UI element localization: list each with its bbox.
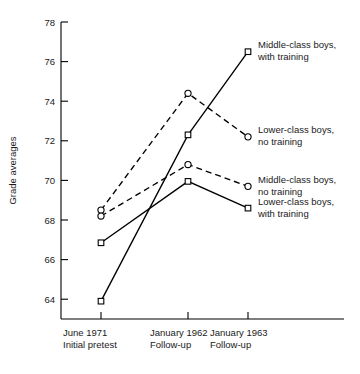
data-point-marker-square	[98, 240, 104, 246]
x-category-label: Follow-up	[150, 339, 191, 350]
y-axis-ticks: 6466687072747678	[44, 17, 68, 305]
y-axis-title: Grade averages	[7, 136, 18, 204]
y-tick-label: 78	[44, 17, 55, 28]
data-point-marker-circle	[185, 90, 191, 96]
data-point-marker-circle	[245, 183, 251, 189]
series-line	[101, 93, 248, 210]
grade-averages-line-chart: 6466687072747678Grade averagesJune 1971I…	[0, 0, 360, 374]
data-point-marker-square	[245, 205, 251, 211]
x-category-label: Follow-up	[210, 339, 251, 350]
data-point-marker-square	[185, 179, 191, 185]
data-point-marker-circle	[245, 134, 251, 140]
y-tick-label: 70	[44, 175, 55, 186]
series-legend-label: Lower-class boys,	[258, 124, 334, 135]
x-category-label: June 1971	[63, 327, 107, 338]
data-point-marker-circle	[185, 161, 191, 167]
data-point-marker-square	[185, 132, 191, 138]
series-legend-label: Middle-class boys,	[258, 174, 336, 185]
y-tick-label: 74	[44, 96, 55, 107]
data-point-marker-square	[98, 298, 104, 304]
series-line	[101, 181, 248, 242]
x-category-label: January 1963	[210, 327, 268, 338]
series-legend-label: with training	[257, 51, 309, 62]
data-point-marker-square	[245, 49, 251, 55]
series-legend-label: Lower-class boys,	[258, 196, 334, 207]
y-tick-label: 72	[44, 135, 55, 146]
series-legend-label: with training	[257, 208, 309, 219]
series-group: Middle-class boys,with trainingLower-cla…	[98, 39, 336, 304]
x-axis-ticks: June 1971Initial pretestJanuary 1962Foll…	[63, 312, 268, 350]
axes	[61, 22, 344, 319]
data-point-marker-circle	[98, 207, 104, 213]
series-line	[101, 52, 248, 301]
y-tick-label: 68	[44, 215, 55, 226]
y-axis-title-text: Grade averages	[7, 136, 18, 204]
series-legend-label: no training	[258, 136, 302, 147]
series-legend-label: Middle-class boys,	[258, 39, 336, 50]
series-1: Middle-class boys,with training	[98, 39, 336, 304]
y-tick-label: 66	[44, 254, 55, 265]
y-tick-label: 64	[44, 294, 55, 305]
y-tick-label: 76	[44, 56, 55, 67]
x-category-label: Initial pretest	[63, 339, 117, 350]
chart-canvas: 6466687072747678Grade averagesJune 1971I…	[0, 0, 360, 374]
x-category-label: January 1962	[150, 327, 208, 338]
data-point-marker-circle	[98, 213, 104, 219]
